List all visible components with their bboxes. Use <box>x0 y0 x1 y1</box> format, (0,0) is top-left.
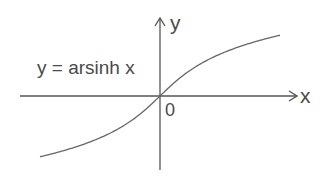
origin-label: 0 <box>165 101 175 119</box>
y-axis-label: y <box>170 12 181 33</box>
x-axis-label: x <box>300 85 311 106</box>
function-plot <box>0 0 334 180</box>
function-label: y = arsinh x <box>37 58 135 77</box>
